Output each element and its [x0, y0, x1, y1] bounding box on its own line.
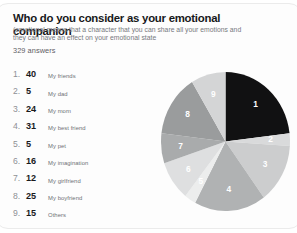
pie-slice-label: 6: [186, 164, 191, 174]
list-item-count: 5: [26, 86, 48, 96]
pie-slice-label: 1: [253, 99, 258, 109]
list-item-count: 31: [26, 121, 48, 131]
list-item: 6.16My imagination: [13, 156, 148, 173]
list-item-label: My dad: [48, 86, 68, 98]
pie-slice-label: 5: [198, 176, 203, 186]
pie-slice-label: 4: [226, 184, 231, 194]
list-item-rank: 7.: [13, 173, 26, 183]
list-item: 1.40My friends: [13, 69, 148, 86]
pie-slice-label: 3: [263, 159, 268, 169]
list-item: 4.31My best friend: [13, 121, 148, 138]
list-item-rank: 1.: [13, 69, 26, 79]
pie-slice-label: 2: [268, 134, 273, 144]
list-item: 3.24My mom: [13, 104, 148, 121]
list-item-count: 40: [26, 69, 48, 79]
list-item-label: My best friend: [48, 121, 86, 133]
list-item-label: My friends: [48, 69, 76, 81]
list-item-label: My girlfriend: [48, 173, 81, 185]
list-item-count: 25: [26, 191, 48, 201]
list-item: 8.25My boyfriend: [13, 191, 148, 208]
list-item: 9.15Others: [13, 208, 148, 225]
list-item-rank: 5.: [13, 139, 26, 149]
list-item-rank: 6.: [13, 156, 26, 166]
list-item-label: Others: [48, 208, 66, 220]
pie-slice-label: 9: [211, 89, 216, 99]
ranked-legend-list: 1.40My friends2.5My dad3.24My mom4.31My …: [13, 69, 148, 226]
pie-slice-label: 7: [178, 141, 183, 151]
answers-count: 329 answers: [13, 46, 55, 55]
list-item-label: My pet: [48, 139, 66, 151]
list-item-label: My boyfriend: [48, 191, 82, 203]
screenshot-root: Who do you consider as your emotional co…: [0, 0, 297, 233]
list-item-rank: 8.: [13, 191, 26, 201]
list-item-rank: 9.: [13, 208, 26, 218]
pie-slice-label: 8: [185, 109, 190, 119]
list-item-rank: 4.: [13, 121, 26, 131]
list-item: 2.5My dad: [13, 86, 148, 103]
page-subtitle: (emotional means that a character that y…: [13, 26, 253, 43]
card-content: Who do you consider as your emotional co…: [0, 0, 297, 233]
list-item-rank: 3.: [13, 104, 26, 114]
list-item-label: My mom: [48, 104, 71, 116]
list-item-label: My imagination: [48, 156, 88, 168]
list-item-rank: 2.: [13, 86, 26, 96]
list-item-count: 12: [26, 173, 48, 183]
list-item-count: 24: [26, 104, 48, 114]
pie-chart-svg: 123456789: [160, 72, 292, 213]
pie-chart: 123456789: [160, 72, 292, 213]
list-item-count: 15: [26, 208, 48, 218]
list-item: 5.5My pet: [13, 139, 148, 156]
list-item-count: 5: [26, 139, 48, 149]
list-item: 7.12My girlfriend: [13, 173, 148, 190]
list-item-count: 16: [26, 156, 48, 166]
